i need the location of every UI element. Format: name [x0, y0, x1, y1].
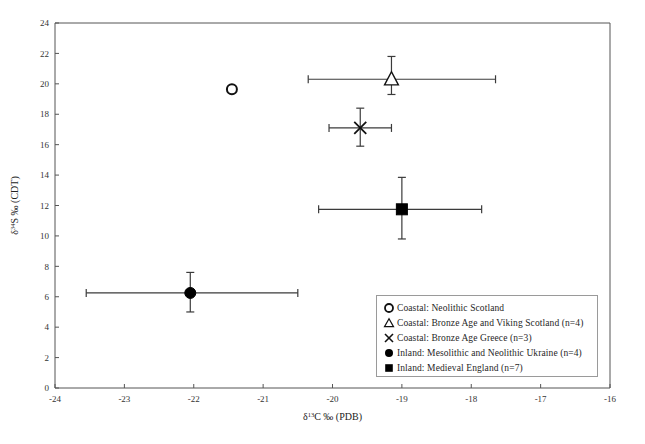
cross-icon — [382, 331, 395, 344]
legend-item-label: Coastal: Bronze Age Greece (n=3) — [397, 333, 532, 343]
series-3 — [329, 108, 391, 146]
x-axis-title-rest: C ‰ (PDB) — [314, 411, 362, 423]
y-tick-label: 24 — [40, 18, 50, 28]
filled-square-icon — [382, 361, 395, 374]
legend-item-label: Coastal: Bronze Age and Viking Scotland … — [397, 318, 583, 328]
series-1 — [227, 84, 237, 94]
y-tick-label: 12 — [40, 201, 49, 211]
y-axis-title-rest: S ‰ (CDT) — [9, 176, 21, 223]
series-4 — [86, 272, 298, 312]
x-tick-label: -22 — [188, 394, 200, 404]
x-tick-label: -23 — [118, 394, 130, 404]
series-4-filled-circle-marker — [185, 287, 196, 298]
legend-item[interactable]: Coastal: Neolithic Scotland — [382, 300, 592, 315]
y-tick-label: 20 — [40, 79, 50, 89]
series-5 — [319, 177, 482, 239]
open-triangle-icon — [382, 316, 395, 329]
y-axis-title: δ34S ‰ (CDT) — [9, 176, 22, 234]
series-1-open-circle-marker — [227, 84, 237, 94]
axis-titles: δ13C ‰ (PDB)δ34S ‰ (CDT) — [9, 176, 363, 423]
x-tick-label: -20 — [327, 394, 339, 404]
data-points-group — [86, 56, 495, 312]
legend-item-label: Coastal: Neolithic Scotland — [397, 303, 504, 313]
x-tick-label: -16 — [604, 394, 616, 404]
y-tick-label: 10 — [40, 231, 50, 241]
y-tick-label: 14 — [40, 170, 50, 180]
legend-item-label: Inland: Medieval England (n=7) — [397, 363, 523, 373]
legend-item[interactable]: Inland: Medieval England (n=7) — [382, 360, 592, 375]
x-tick-label: -18 — [465, 394, 477, 404]
series-2 — [308, 56, 495, 94]
filled-circle-icon — [382, 346, 395, 359]
series-2-open-triangle-marker — [385, 72, 399, 85]
x-tick-label: -24 — [49, 394, 61, 404]
y-tick-label: 4 — [45, 322, 50, 332]
x-tick-label: -19 — [396, 394, 408, 404]
x-axis-title: δ13C ‰ (PDB) — [303, 411, 362, 424]
y-tick-label: 18 — [40, 109, 50, 119]
x-tick-label: -17 — [535, 394, 547, 404]
y-tick-label: 0 — [45, 383, 50, 393]
series-5-filled-square-marker — [396, 204, 407, 215]
y-tick-label: 2 — [45, 353, 50, 363]
legend: Coastal: Neolithic ScotlandCoastal: Bron… — [376, 295, 598, 377]
legend-item[interactable]: Coastal: Bronze Age and Viking Scotland … — [382, 315, 592, 330]
figure-container: -24-23-22-21-20-19-18-17-160246810121416… — [0, 0, 645, 444]
open-circle-icon — [382, 301, 395, 314]
scatter-plot: -24-23-22-21-20-19-18-17-160246810121416… — [0, 0, 645, 444]
y-tick-label: 22 — [40, 49, 49, 59]
y-tick-label: 8 — [45, 262, 50, 272]
legend-item-label: Inland: Mesolithic and Neolithic Ukraine… — [397, 348, 582, 358]
y-tick-label: 16 — [40, 140, 50, 150]
legend-item[interactable]: Inland: Mesolithic and Neolithic Ukraine… — [382, 345, 592, 360]
legend-item[interactable]: Coastal: Bronze Age Greece (n=3) — [382, 330, 592, 345]
y-tick-label: 6 — [45, 292, 50, 302]
x-tick-label: -21 — [257, 394, 269, 404]
